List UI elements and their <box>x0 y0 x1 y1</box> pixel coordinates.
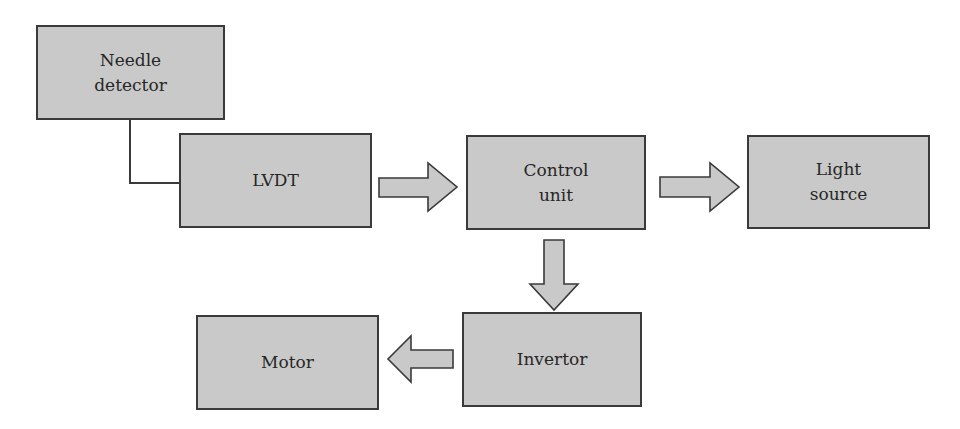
node-motor: Motor <box>196 315 379 410</box>
block-diagram: Needle detector LVDT Control unit Light … <box>0 0 960 429</box>
node-label: LVDT <box>252 168 299 193</box>
arrow-control-unit-to-invertor <box>530 240 578 310</box>
node-label: Invertor <box>517 347 588 372</box>
node-lvdt: LVDT <box>179 133 372 228</box>
arrow-invertor-to-motor <box>388 336 453 382</box>
node-label: Motor <box>261 350 314 375</box>
node-label: Needle detector <box>94 48 167 98</box>
node-needle-detector: Needle detector <box>36 25 225 120</box>
node-control-unit: Control unit <box>466 135 646 230</box>
arrow-lvdt-to-control-unit <box>379 163 457 211</box>
arrow-control-unit-to-light-source <box>660 163 739 211</box>
node-label: Control unit <box>524 158 589 208</box>
node-light-source: Light source <box>747 135 930 229</box>
node-invertor: Invertor <box>462 312 642 407</box>
connector-needle-to-lvdt <box>130 119 180 183</box>
node-label: Light source <box>810 157 868 207</box>
